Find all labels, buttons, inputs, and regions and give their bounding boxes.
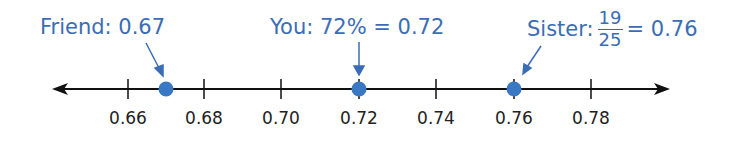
sister-label-suffix: = 0.76 bbox=[627, 19, 698, 40]
sister-arrow-icon bbox=[523, 64, 531, 74]
tick-label: 0.76 bbox=[495, 108, 533, 128]
tick-label: 0.78 bbox=[572, 108, 610, 128]
you-point bbox=[352, 82, 367, 97]
you-label: You: 72% = 0.72 bbox=[270, 17, 444, 38]
you-arrow-icon bbox=[354, 66, 364, 75]
fraction-numerator: 19 bbox=[598, 9, 623, 30]
tick-label: 0.66 bbox=[109, 108, 147, 128]
tick-label: 0.72 bbox=[340, 108, 378, 128]
sister-point bbox=[507, 82, 522, 97]
tick-label: 0.70 bbox=[262, 108, 300, 128]
friend-point bbox=[159, 82, 174, 97]
friend-label: Friend: 0.67 bbox=[40, 17, 165, 38]
tick-label: 0.68 bbox=[185, 108, 223, 128]
sister-fraction: 19 25 bbox=[598, 9, 623, 50]
friend-arrow-icon bbox=[155, 65, 163, 76]
sister-label-prefix: Sister: bbox=[527, 19, 594, 40]
fraction-denominator: 25 bbox=[599, 30, 622, 50]
friend-pointer bbox=[146, 43, 160, 70]
tick-label: 0.74 bbox=[417, 108, 455, 128]
sister-label: Sister: 19 25 = 0.76 bbox=[527, 9, 698, 50]
